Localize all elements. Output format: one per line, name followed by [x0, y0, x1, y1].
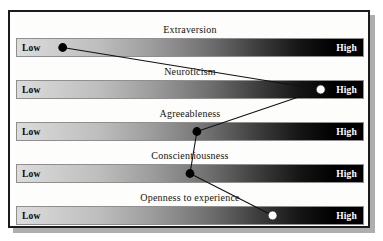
trait-scale-bar-conscientiousness[interactable]: Low High — [16, 164, 364, 183]
trait-label-conscientiousness: Conscientiousness — [16, 149, 364, 162]
scale-anchor-high-neuroticism: High — [336, 84, 357, 95]
trait-label-openness: Openness to experience — [16, 191, 364, 204]
trait-scale-bar-agreeableness[interactable]: Low High — [16, 122, 364, 141]
trait-row-extraversion: Extraversion Low High — [16, 24, 364, 66]
scale-anchor-high-extraversion: High — [336, 42, 357, 53]
trait-row-conscientiousness: Conscientiousness Low High — [16, 150, 364, 192]
scale-anchor-high-agreeableness: High — [336, 126, 357, 137]
trait-row-agreeableness: Agreeableness Low High — [16, 108, 364, 150]
scale-anchor-low-openness: Low — [22, 210, 41, 221]
trait-scale-bar-openness[interactable]: Low High — [16, 206, 364, 225]
trait-label-neuroticism: Neuroticism — [16, 65, 364, 78]
trait-scale-bar-extraversion[interactable]: Low High — [16, 38, 364, 57]
scale-anchor-low-neuroticism: Low — [22, 84, 41, 95]
trait-label-extraversion: Extraversion — [16, 23, 364, 36]
trait-scales-chart: Extraversion Low High Neuroticism Low Hi… — [10, 12, 368, 226]
trait-row-openness: Openness to experience Low High — [16, 192, 364, 234]
scale-anchor-low-agreeableness: Low — [22, 126, 41, 137]
personality-profile-panel: Extraversion Low High Neuroticism Low Hi… — [8, 10, 370, 228]
scale-anchor-high-openness: High — [336, 210, 357, 221]
scale-anchor-low-extraversion: Low — [22, 42, 41, 53]
trait-label-agreeableness: Agreeableness — [16, 107, 364, 120]
trait-scale-bar-neuroticism[interactable]: Low High — [16, 80, 364, 99]
scale-anchor-high-conscientiousness: High — [336, 168, 357, 179]
trait-row-neuroticism: Neuroticism Low High — [16, 66, 364, 108]
scale-anchor-low-conscientiousness: Low — [22, 168, 41, 179]
